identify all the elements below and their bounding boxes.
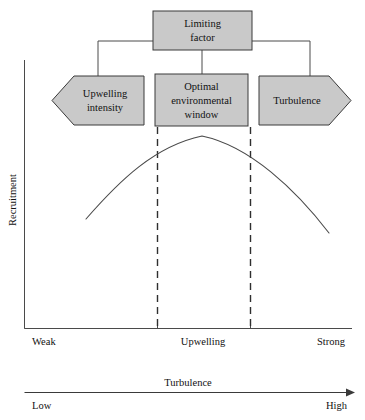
limiting-factor-label-2: factor xyxy=(190,32,215,43)
turbulence-shape[interactable]: Turbulence xyxy=(259,76,351,125)
turbulence-arrowhead-icon xyxy=(346,389,355,397)
recruitment-curve-path xyxy=(86,136,329,233)
limiting-factor-box[interactable]: Limiting factor xyxy=(153,11,252,50)
connector-left xyxy=(98,41,153,76)
x-tick-label-upwelling: Upwelling xyxy=(181,336,226,347)
optimal-window-label-1: Optimal xyxy=(184,81,218,92)
turbulence-label: Turbulence xyxy=(273,95,321,106)
figure-root: Limiting factor Upwelling intensity Opti… xyxy=(0,0,365,420)
upwelling-intensity-polygon xyxy=(52,76,144,125)
turbulence-label-low: Low xyxy=(32,400,52,411)
optimal-window-label-3: window xyxy=(185,109,219,120)
optimal-window-box[interactable]: Optimal environmental window xyxy=(155,74,248,126)
turbulence-label-high: High xyxy=(326,400,348,411)
optimal-window-bounds xyxy=(158,127,251,328)
limiting-factor-label-1: Limiting xyxy=(184,18,222,29)
turbulence-axis-title: Turbulence xyxy=(164,377,212,388)
connector-right xyxy=(252,41,310,76)
upwelling-intensity-shape[interactable]: Upwelling intensity xyxy=(52,76,144,125)
limiting-factor-shape xyxy=(153,11,252,50)
optimal-window-label-2: environmental xyxy=(171,95,232,106)
x-tick-label-weak: Weak xyxy=(32,336,56,347)
upwelling-intensity-label-2: intensity xyxy=(87,102,124,113)
y-axis-title: Recruitment xyxy=(7,174,18,226)
x-tick-label-strong: Strong xyxy=(317,336,346,347)
recruitment-curve xyxy=(86,136,329,233)
diagram-canvas: Limiting factor Upwelling intensity Opti… xyxy=(0,0,365,420)
upwelling-intensity-label-1: Upwelling xyxy=(83,88,128,99)
turbulence-axis: Turbulence Low High xyxy=(25,377,356,411)
